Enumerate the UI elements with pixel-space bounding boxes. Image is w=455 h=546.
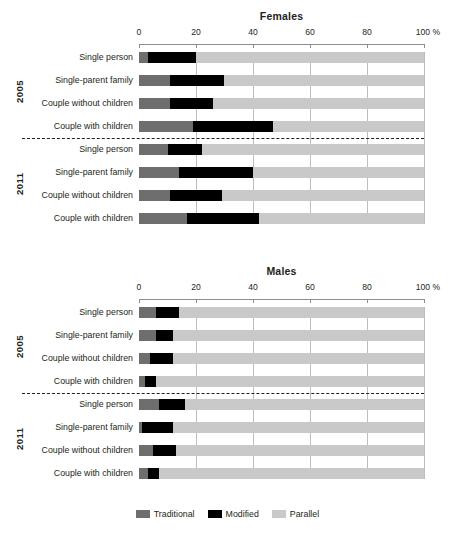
legend-swatch-icon bbox=[272, 510, 286, 518]
row-spacer bbox=[139, 387, 424, 399]
row-spacer bbox=[139, 341, 424, 353]
bar-segment-traditional bbox=[139, 121, 193, 132]
bar-segment-traditional bbox=[139, 307, 156, 318]
stacked-bar-row bbox=[139, 213, 424, 224]
group-label-year: 2011 bbox=[14, 144, 25, 224]
bar-segment-modified bbox=[156, 330, 173, 341]
x-tick-label: 80 bbox=[362, 282, 372, 292]
bar-segment-parallel bbox=[202, 144, 424, 155]
x-tick-label: 60 bbox=[305, 27, 315, 37]
bar-segment-parallel bbox=[179, 307, 424, 318]
row-spacer bbox=[139, 86, 424, 98]
row-spacer bbox=[139, 318, 424, 330]
x-axis-tickmark bbox=[310, 299, 311, 303]
legend-item[interactable]: Parallel bbox=[272, 509, 319, 519]
bar-segment-modified bbox=[148, 468, 159, 479]
bar-segment-traditional bbox=[139, 144, 168, 155]
bar-rows-females bbox=[139, 52, 424, 224]
row-spacer bbox=[139, 178, 424, 190]
bar-segment-modified bbox=[170, 75, 224, 86]
x-tick-label: 0 bbox=[137, 27, 142, 37]
x-axis-tick-labels-males: 020406080100 % bbox=[0, 282, 455, 294]
bar-segment-parallel bbox=[156, 376, 424, 387]
x-axis-line-females bbox=[139, 44, 425, 45]
bar-segment-modified bbox=[142, 422, 173, 433]
x-axis-tickmark bbox=[196, 299, 197, 303]
bar-segment-traditional bbox=[139, 75, 170, 86]
x-axis-tick-labels-females: 020406080100 % bbox=[0, 27, 455, 39]
bar-segment-traditional bbox=[139, 468, 148, 479]
bar-segment-parallel bbox=[213, 98, 424, 109]
gridline bbox=[424, 52, 425, 224]
group-label-year: 2005 bbox=[14, 52, 25, 132]
x-tick-label: 100 % bbox=[416, 27, 440, 37]
row-spacer bbox=[139, 410, 424, 422]
x-axis-tickmark bbox=[367, 299, 368, 303]
x-axis-tickmark bbox=[253, 44, 254, 48]
stacked-bar-row bbox=[139, 422, 424, 433]
x-axis-tickmark bbox=[139, 299, 140, 303]
bar-segment-traditional bbox=[139, 353, 150, 364]
bar-segment-parallel bbox=[222, 190, 424, 201]
bar-segment-parallel bbox=[173, 422, 424, 433]
bar-segment-traditional bbox=[139, 167, 179, 178]
bar-segment-modified bbox=[153, 445, 176, 456]
bar-segment-parallel bbox=[159, 468, 424, 479]
x-axis-tickmark bbox=[424, 44, 425, 48]
bar-segment-traditional bbox=[139, 190, 170, 201]
stacked-bar-row bbox=[139, 121, 424, 132]
bar-segment-modified bbox=[193, 121, 273, 132]
x-axis-tickmark bbox=[310, 44, 311, 48]
x-tick-label: 20 bbox=[191, 282, 201, 292]
stacked-bar-row bbox=[139, 330, 424, 341]
bar-segment-parallel bbox=[176, 445, 424, 456]
legend-swatch-icon bbox=[208, 510, 222, 518]
legend-label: Parallel bbox=[290, 509, 319, 519]
bar-segment-traditional bbox=[139, 330, 156, 341]
x-axis-tickmark bbox=[139, 44, 140, 48]
stacked-bar-row bbox=[139, 468, 424, 479]
gridline bbox=[424, 307, 425, 479]
stacked-bar-row bbox=[139, 98, 424, 109]
legend-item[interactable]: Modified bbox=[208, 509, 259, 519]
bar-segment-traditional bbox=[139, 52, 148, 63]
bar-segment-modified bbox=[156, 307, 179, 318]
row-spacer bbox=[139, 456, 424, 468]
bar-segment-parallel bbox=[173, 330, 424, 341]
stacked-bar-row bbox=[139, 52, 424, 63]
stacked-bar-row bbox=[139, 144, 424, 155]
x-tick-label: 60 bbox=[305, 282, 315, 292]
legend-item[interactable]: Traditional bbox=[136, 509, 195, 519]
bar-segment-modified bbox=[170, 98, 213, 109]
panel-title-females: Females bbox=[139, 10, 424, 22]
bar-segment-traditional bbox=[139, 213, 187, 224]
bar-segment-parallel bbox=[273, 121, 424, 132]
x-tick-label: 80 bbox=[362, 27, 372, 37]
x-tick-label: 100 % bbox=[416, 282, 440, 292]
bar-segment-modified bbox=[168, 144, 202, 155]
bar-segment-parallel bbox=[196, 52, 424, 63]
stacked-bar-row bbox=[139, 75, 424, 86]
bar-segment-traditional bbox=[139, 98, 170, 109]
bar-segment-parallel bbox=[224, 75, 424, 86]
bar-rows-males bbox=[139, 307, 424, 479]
bar-segment-modified bbox=[170, 190, 221, 201]
row-spacer bbox=[139, 433, 424, 445]
bar-segment-parallel bbox=[259, 213, 424, 224]
legend-swatch-icon bbox=[136, 510, 150, 518]
x-axis-tickmark bbox=[367, 44, 368, 48]
x-axis-line-males bbox=[139, 299, 425, 300]
legend: TraditionalModifiedParallel bbox=[0, 509, 455, 519]
bar-segment-modified bbox=[150, 353, 173, 364]
bar-segment-traditional bbox=[139, 445, 153, 456]
row-spacer bbox=[139, 63, 424, 75]
x-tick-label: 0 bbox=[137, 282, 142, 292]
legend-label: Traditional bbox=[154, 509, 195, 519]
plot-area-females bbox=[139, 52, 424, 224]
row-spacer bbox=[139, 109, 424, 121]
bar-segment-modified bbox=[145, 376, 156, 387]
row-spacer bbox=[139, 132, 424, 144]
legend-label: Modified bbox=[226, 509, 259, 519]
stacked-bar-row bbox=[139, 307, 424, 318]
group-label-year: 2011 bbox=[14, 399, 25, 479]
